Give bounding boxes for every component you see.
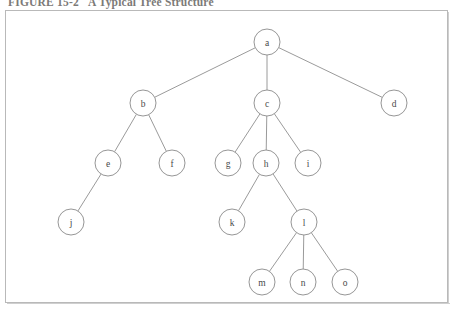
- tree-edge-b-f: [149, 115, 167, 152]
- tree-edge-e-j: [78, 174, 101, 211]
- tree-edge-h-k: [238, 174, 259, 210]
- tree-node-layer: abcdefghijklmno: [58, 29, 407, 295]
- tree-node-e[interactable]: e: [95, 150, 121, 176]
- tree-edge-b-e: [115, 114, 137, 152]
- tree-node-c[interactable]: c: [254, 90, 280, 116]
- tree-edge-a-b: [155, 48, 256, 98]
- tree-node-j[interactable]: j: [58, 209, 84, 235]
- tree-node-k[interactable]: k: [219, 209, 245, 235]
- tree-node-f[interactable]: f: [159, 150, 185, 176]
- tree-node-label-d: d: [392, 99, 397, 109]
- tree-node-label-n: n: [301, 278, 306, 288]
- tree-edge-c-i: [274, 114, 300, 153]
- tree-node-d[interactable]: d: [381, 90, 407, 116]
- tree-node-a[interactable]: a: [254, 29, 280, 55]
- tree-node-label-k: k: [230, 218, 235, 228]
- tree-node-label-h: h: [264, 159, 269, 169]
- tree-edge-l-m: [269, 233, 296, 272]
- tree-node-label-b: b: [141, 99, 146, 109]
- figure-page: FIGURE 15-2A Typical Tree Structure abcd…: [0, 0, 462, 318]
- tree-node-label-j: j: [69, 218, 73, 228]
- tree-edge-c-g: [235, 114, 260, 152]
- tree-node-label-e: e: [106, 159, 110, 169]
- tree-node-b[interactable]: b: [130, 90, 156, 116]
- tree-node-i[interactable]: i: [295, 150, 321, 176]
- tree-diagram: abcdefghijklmno: [0, 0, 462, 318]
- tree-edge-l-n: [303, 235, 304, 269]
- tree-node-o[interactable]: o: [332, 269, 358, 295]
- tree-node-label-g: g: [226, 159, 231, 169]
- tree-node-label-l: l: [303, 218, 306, 228]
- tree-node-label-i: i: [307, 159, 310, 169]
- tree-node-h[interactable]: h: [253, 150, 279, 176]
- tree-node-m[interactable]: m: [249, 269, 275, 295]
- tree-edge-a-d: [279, 48, 383, 98]
- tree-node-l[interactable]: l: [291, 209, 317, 235]
- tree-edge-l-o: [311, 233, 337, 272]
- tree-node-label-o: o: [343, 278, 348, 288]
- tree-node-g[interactable]: g: [215, 150, 241, 176]
- tree-edge-h-l: [273, 174, 297, 211]
- tree-edge-c-h: [266, 116, 267, 150]
- tree-node-n[interactable]: n: [290, 269, 316, 295]
- tree-node-label-c: c: [265, 99, 269, 109]
- tree-node-label-m: m: [258, 278, 266, 288]
